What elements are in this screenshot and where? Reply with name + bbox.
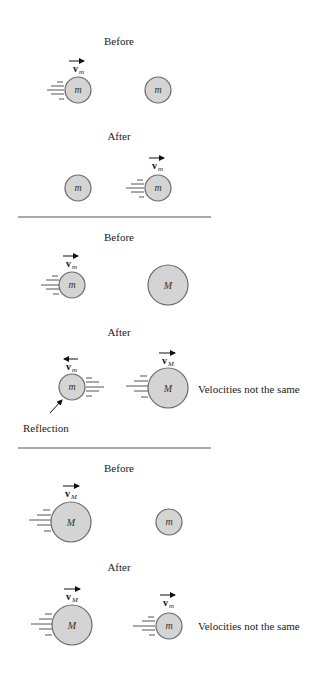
svg-text:M: M bbox=[163, 383, 173, 394]
motion-lines-icon bbox=[133, 617, 155, 635]
svg-text:m: m bbox=[154, 84, 161, 95]
svg-text:m: m bbox=[169, 602, 174, 610]
svg-text:v: v bbox=[73, 63, 78, 74]
ball-m-stationary: m bbox=[65, 175, 91, 201]
before-title: Before bbox=[104, 231, 134, 243]
svg-text:m: m bbox=[79, 68, 84, 76]
reflection-label: Reflection bbox=[23, 422, 69, 434]
svg-text:m: m bbox=[74, 182, 81, 193]
velocities-note: Velocities not the same bbox=[198, 620, 300, 632]
ball-m-moving: m v m bbox=[126, 158, 171, 201]
ball-m-stationary: m bbox=[145, 77, 171, 103]
motion-lines-icon bbox=[126, 180, 144, 197]
ball-m-stationary: m bbox=[156, 509, 182, 535]
ball-M-moving: M v M bbox=[31, 589, 92, 645]
motion-lines-icon bbox=[31, 614, 52, 635]
svg-text:M: M bbox=[70, 493, 78, 501]
svg-text:v: v bbox=[163, 597, 168, 608]
ball-M-moving: M v M bbox=[126, 353, 188, 408]
svg-text:v: v bbox=[66, 591, 71, 602]
svg-text:m: m bbox=[165, 620, 172, 631]
svg-text:M: M bbox=[67, 620, 77, 631]
svg-text:m: m bbox=[154, 182, 161, 193]
svg-text:M: M bbox=[167, 360, 175, 368]
svg-text:m: m bbox=[72, 366, 77, 374]
before-title: Before bbox=[104, 35, 134, 47]
svg-text:M: M bbox=[71, 596, 79, 604]
after-title: After bbox=[107, 130, 131, 142]
scenario-1: Before m v m m After m bbox=[47, 35, 171, 201]
before-title: Before bbox=[104, 462, 134, 474]
motion-lines-icon bbox=[86, 378, 104, 396]
motion-lines-icon bbox=[29, 510, 51, 531]
svg-text:v: v bbox=[66, 361, 71, 372]
ball-m-reflected: m v m bbox=[59, 359, 104, 400]
svg-text:v: v bbox=[162, 355, 167, 366]
after-title: After bbox=[107, 326, 131, 338]
scenario-3: Before M v M m After bbox=[29, 462, 300, 645]
svg-text:v: v bbox=[66, 258, 71, 269]
velocities-note: Velocities not the same bbox=[198, 383, 300, 395]
svg-text:v: v bbox=[65, 488, 70, 499]
motion-lines-icon bbox=[41, 276, 59, 294]
svg-text:v: v bbox=[152, 160, 157, 171]
svg-text:M: M bbox=[163, 280, 173, 291]
svg-text:M: M bbox=[66, 517, 76, 528]
ball-m-moving: m v m bbox=[133, 595, 182, 639]
after-title: After bbox=[107, 561, 131, 573]
svg-text:m: m bbox=[74, 84, 81, 95]
svg-text:m: m bbox=[68, 381, 75, 392]
svg-text:m: m bbox=[72, 263, 77, 271]
svg-text:m: m bbox=[165, 516, 172, 527]
motion-lines-icon bbox=[47, 82, 64, 99]
ball-M-stationary: M bbox=[148, 265, 188, 305]
ball-m-moving: m v m bbox=[41, 256, 85, 298]
motion-lines-icon bbox=[126, 376, 148, 397]
ball-m-moving: m v m bbox=[47, 61, 91, 103]
reflection-pointer-icon bbox=[50, 400, 62, 413]
svg-text:m: m bbox=[68, 279, 75, 290]
svg-text:m: m bbox=[158, 165, 163, 173]
scenario-2: Before m v m M After m bbox=[23, 231, 300, 434]
collision-diagram: Before m v m m After m bbox=[0, 0, 313, 679]
ball-M-moving: M v M bbox=[29, 486, 91, 542]
